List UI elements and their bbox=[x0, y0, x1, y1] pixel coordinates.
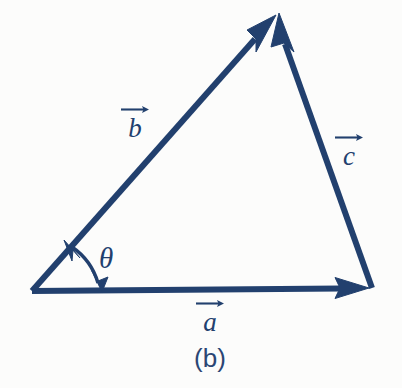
vector-a-label-text: a bbox=[195, 309, 225, 336]
vector-b-label: b bbox=[120, 103, 150, 142]
vector-a-label: a bbox=[195, 297, 225, 336]
vector-b-label-text: b bbox=[120, 115, 150, 142]
figure-caption: (b) bbox=[194, 345, 226, 371]
vector-triangle-figure: b c a θ (b) bbox=[0, 0, 402, 388]
vector-c-label: c bbox=[334, 131, 364, 170]
vector-a-shaft bbox=[32, 289, 341, 292]
vector-c-label-text: c bbox=[334, 143, 364, 170]
theta-label: θ bbox=[99, 244, 113, 273]
